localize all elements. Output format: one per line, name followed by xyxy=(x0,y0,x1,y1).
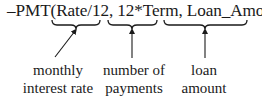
label-monthly-interest-rate: monthly interest rate xyxy=(23,61,93,97)
brace-loan-amount xyxy=(164,20,247,29)
label-number-of-payments: number of payments xyxy=(103,61,165,97)
label-loan-amount: loan amount xyxy=(182,61,227,97)
label-line2: payments xyxy=(103,79,165,97)
brace-rate xyxy=(52,20,100,29)
arrow-rate-icon xyxy=(55,31,75,57)
label-line1: loan xyxy=(182,61,227,79)
brace-term xyxy=(108,20,157,29)
label-line1: number of xyxy=(103,61,165,79)
label-line2: amount xyxy=(182,79,227,97)
label-line2: interest rate xyxy=(23,79,93,97)
label-line1: monthly xyxy=(23,61,93,79)
